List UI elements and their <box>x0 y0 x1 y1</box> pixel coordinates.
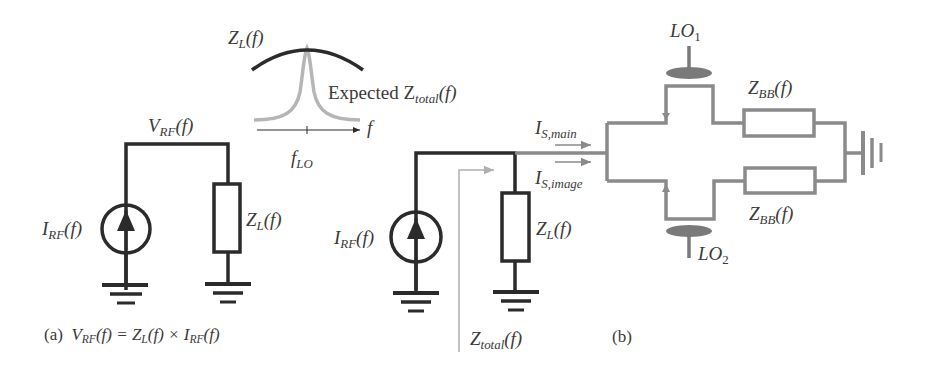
zbb-bottom-label: ZBB(f) <box>749 204 793 227</box>
lower-switch-arrow-icon <box>662 184 670 192</box>
upper-switch-arrow-icon <box>662 113 670 120</box>
is-main-label: IS,main <box>535 118 577 141</box>
circuit-schematic <box>0 0 926 376</box>
lo2-label: LO2 <box>698 244 729 267</box>
lower-switch-path <box>607 181 745 219</box>
mixer-network <box>607 86 863 219</box>
panel-b-top-wire <box>416 153 515 290</box>
inset-zl-label: ZL(f) <box>228 28 264 51</box>
zbb-top-resistor <box>744 110 814 136</box>
is-image-label: IS,image <box>535 168 583 191</box>
upper-switch-path <box>607 86 744 123</box>
panel-b-caption: (b) <box>612 328 632 345</box>
panel-a-load-resistor <box>214 184 240 252</box>
panel-a-zl-label: ZL(f) <box>246 210 282 233</box>
lo1-label: LO1 <box>670 21 701 44</box>
inset-frequency-axis-label: f <box>367 118 372 137</box>
panel-b-source-ground-icon <box>393 293 439 311</box>
panel-b-irf-label: IRF(f) <box>334 228 374 251</box>
lo1-gate <box>666 46 712 79</box>
panel-b-load-resistor <box>502 193 529 261</box>
panel-a-vrf-label: VRF(f) <box>148 116 193 139</box>
zbb-bottom-resistor <box>745 168 815 193</box>
panel-b-load-ground-icon <box>493 292 539 310</box>
panel-a-irf-label: IRF(f) <box>42 219 82 242</box>
panel-a-load-ground-icon <box>205 284 251 302</box>
zbb-top-label: ZBB(f) <box>748 78 792 101</box>
panel-a-caption: (a) VRF(f) = ZL(f) × IRF(f) <box>44 326 220 346</box>
inset-flo-tick-label: fLO <box>291 148 313 171</box>
ztotal-indicator-arrow <box>459 170 494 352</box>
mixer-impedance-diagram: ZL(f) Expected Ztotal(f) f fLO VRF(f) IR… <box>0 0 926 376</box>
panel-b-circuit <box>391 46 881 352</box>
panel-a-circuit <box>102 144 251 303</box>
baseband-ground-icon <box>863 131 881 175</box>
inset-expected-ztotal-label: Expected Ztotal(f) <box>328 83 457 106</box>
panel-b-ztotal-label: Ztotal(f) <box>470 329 522 352</box>
panel-b-zl-label: ZL(f) <box>536 219 572 242</box>
